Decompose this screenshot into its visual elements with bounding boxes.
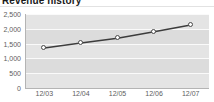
revenue-history-chart-widget: Revenue history 05001,0001,5002,0002,500…: [0, 0, 214, 102]
y-axis: 05001,0001,5002,0002,500: [0, 14, 24, 88]
data-point-marker[interactable]: [41, 45, 46, 50]
x-axis: 12/0312/0412/0512/0612/07: [26, 90, 209, 102]
y-axis-tick-label: 1,000: [3, 55, 21, 62]
data-point-marker[interactable]: [151, 29, 156, 34]
y-axis-tick-label: 2,000: [3, 25, 21, 32]
data-point-marker[interactable]: [115, 35, 120, 40]
data-point-marker[interactable]: [188, 22, 193, 27]
data-point-marker[interactable]: [78, 40, 83, 45]
series-line: [26, 14, 209, 88]
x-axis-tick-label: 12/04: [72, 90, 90, 98]
y-axis-tick-label: 2,500: [3, 11, 21, 18]
y-axis-tick-label: 0: [17, 85, 21, 92]
x-axis-tick-label: 12/05: [109, 90, 127, 98]
title-divider: [0, 6, 214, 7]
x-axis-tick-label: 12/03: [36, 90, 54, 98]
y-axis-tick-label: 1,500: [3, 40, 21, 47]
data-series-revenue: [26, 14, 209, 88]
x-axis-tick-label: 12/06: [145, 90, 163, 98]
x-axis-line: [25, 88, 209, 89]
y-axis-tick-label: 500: [9, 70, 21, 77]
x-axis-tick-label: 12/07: [182, 90, 200, 98]
